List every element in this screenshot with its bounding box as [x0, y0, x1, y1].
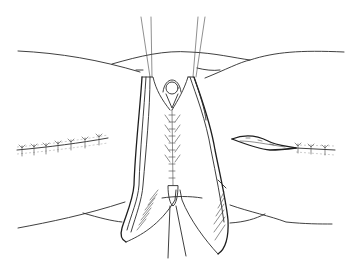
central-round-structure [166, 82, 178, 94]
left-flap [121, 77, 176, 242]
upper-contour [18, 51, 344, 78]
central-structure [163, 80, 186, 258]
line-drawing [0, 0, 358, 266]
right-elliptical-incision [232, 136, 335, 155]
midline-suture-line [172, 110, 173, 185]
surgical-illustration [0, 0, 358, 266]
retraction-sutures [141, 17, 205, 77]
left-sutured-incision [17, 134, 108, 156]
